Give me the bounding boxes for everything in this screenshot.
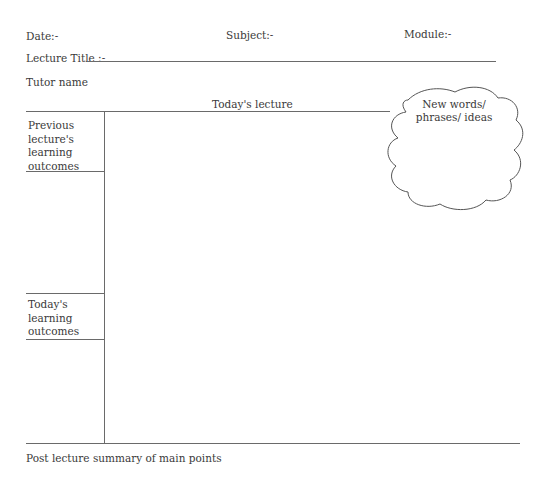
todays-outcomes-top-divider <box>26 293 104 294</box>
previous-outcomes-line: learning <box>28 146 79 160</box>
todays-outcomes-bottom-divider <box>26 339 104 340</box>
todays-outcomes-label: Today's learning outcomes <box>28 298 79 339</box>
cloud-label: New words/ phrases/ ideas <box>409 98 499 124</box>
previous-outcomes-line: lecture's <box>28 133 79 147</box>
todays-outcomes-line: Today's <box>28 298 79 312</box>
cloud-label-line: phrases/ ideas <box>409 111 499 124</box>
lecture-title-label: Lecture Title :- <box>26 52 105 65</box>
previous-outcomes-line: Previous <box>28 119 79 133</box>
todays-outcomes-line: outcomes <box>28 325 79 339</box>
subject-label: Subject:- <box>226 29 273 42</box>
lecture-bottom-divider <box>26 443 520 444</box>
todays-outcomes-line: learning <box>28 312 79 326</box>
tutor-name-label: Tutor name <box>26 76 88 89</box>
cloud-label-line: New words/ <box>409 98 499 111</box>
date-label: Date:- <box>26 30 58 43</box>
previous-outcomes-divider <box>26 171 104 172</box>
post-lecture-summary-label: Post lecture summary of main points <box>26 452 222 465</box>
module-label: Module:- <box>404 28 451 41</box>
todays-lecture-label: Today's lecture <box>212 98 293 111</box>
post-lecture-summary-area[interactable] <box>26 466 520 478</box>
previous-outcomes-label: Previous lecture's learning outcomes <box>28 119 79 173</box>
lecture-title-field-line[interactable] <box>88 61 496 62</box>
